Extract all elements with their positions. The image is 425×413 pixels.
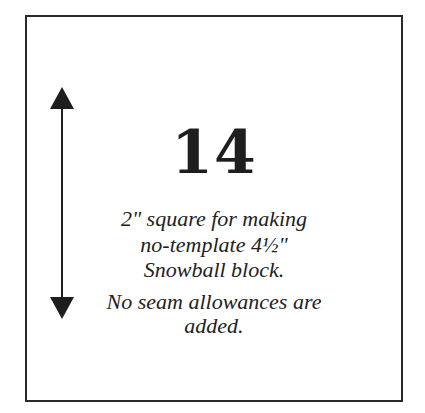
description-line: Snowball block. bbox=[57, 257, 371, 283]
seam-allowance-note: No seam allowances are added. bbox=[57, 290, 371, 338]
description-line: 2" square for making bbox=[57, 206, 371, 232]
template-description: 2" square for making no-template 4½" Sno… bbox=[57, 206, 371, 283]
note-line: added. bbox=[57, 314, 371, 338]
template-number: 14 bbox=[27, 119, 401, 185]
note-line: No seam allowances are bbox=[57, 290, 371, 314]
description-line: no-template 4½" bbox=[57, 232, 371, 258]
template-card: 14 2" square for making no-template 4½" … bbox=[25, 15, 403, 402]
